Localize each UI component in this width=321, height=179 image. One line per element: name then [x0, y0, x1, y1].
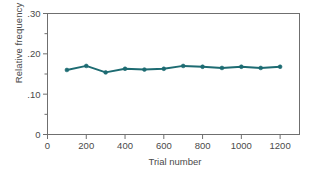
x-tick-label: 400 — [117, 140, 133, 151]
y-tick-label: .20 — [27, 48, 40, 59]
y-tick-label: .30 — [27, 8, 40, 19]
x-axis-ticks — [48, 135, 281, 140]
x-tick-label: 1000 — [231, 140, 252, 151]
x-tick-label: 200 — [78, 140, 94, 151]
data-point — [278, 65, 282, 69]
data-point — [201, 65, 205, 69]
data-point — [162, 67, 166, 71]
y-tick-label: .10 — [27, 89, 40, 100]
y-axis-tick-labels: 0.10.20.30 — [27, 8, 40, 140]
data-point — [65, 68, 69, 72]
data-point — [259, 66, 263, 70]
data-point — [143, 68, 147, 72]
x-tick-label: 0 — [45, 140, 50, 151]
data-series-line — [67, 66, 280, 72]
data-point — [239, 65, 243, 69]
data-point — [84, 64, 88, 68]
data-point — [181, 64, 185, 68]
data-point — [123, 67, 127, 71]
x-tick-label: 600 — [156, 140, 172, 151]
data-point — [104, 70, 108, 74]
x-tick-label: 800 — [195, 140, 211, 151]
data-point — [220, 66, 224, 70]
y-axis-ticks — [43, 14, 48, 135]
chart-figure: Relative frequency Trial number 0.10.20.… — [0, 0, 321, 179]
line-chart-plot: 0.10.20.30 020040060080010001200 — [0, 0, 321, 179]
plot-frame — [48, 14, 300, 135]
x-tick-label: 1200 — [270, 140, 291, 151]
x-axis-tick-labels: 020040060080010001200 — [45, 140, 291, 151]
y-tick-label: 0 — [35, 129, 40, 140]
